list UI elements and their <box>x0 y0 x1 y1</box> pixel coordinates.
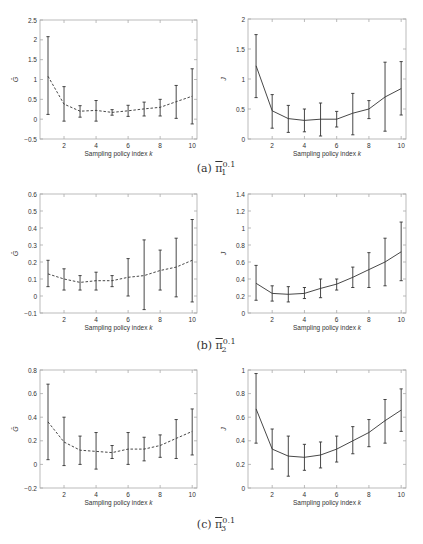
solid-series-line <box>256 409 401 457</box>
y-tick-label: 0.8 <box>236 390 245 397</box>
caption-c: (c) π0.13 <box>0 516 423 533</box>
y-axis-label: J <box>220 427 227 432</box>
error-bar <box>254 374 257 444</box>
y-tick-label: 0.2 <box>236 461 245 468</box>
x-tick-label: 4 <box>303 491 307 498</box>
x-tick-label: 10 <box>398 491 406 498</box>
caption-c-sub: 3 <box>221 524 226 533</box>
chart-c-j: 00.20.40.60.81246810Sampling policy inde… <box>0 0 423 544</box>
figure: −0.500.511.522.5246810Sampling policy in… <box>0 0 423 544</box>
caption-b-sub: 2 <box>222 345 227 354</box>
x-tick-label: 8 <box>367 491 371 498</box>
y-tick-label: 0.6 <box>236 414 245 421</box>
caption-b-label: (b) <box>196 339 212 352</box>
caption-a-sub: 1 <box>221 168 226 177</box>
caption-c-label: (c) <box>197 518 212 531</box>
y-tick-label: 0 <box>241 485 245 492</box>
y-tick-label: 0.4 <box>236 437 245 444</box>
x-axis-label: Sampling policy index k <box>293 499 362 507</box>
caption-a: (a) π0.11 <box>0 160 423 177</box>
caption-a-label: (a) <box>197 162 212 175</box>
x-tick-label: 2 <box>270 491 274 498</box>
caption-b: (b) π0.12 <box>0 337 423 354</box>
y-tick-label: 1 <box>241 367 245 374</box>
x-tick-label: 6 <box>335 491 339 498</box>
